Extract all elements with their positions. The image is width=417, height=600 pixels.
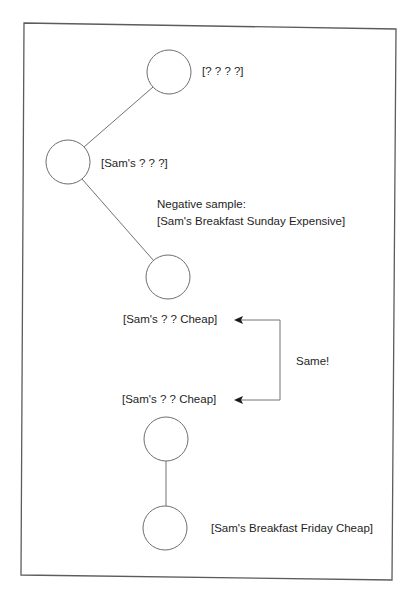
diagram-frame [21,23,396,580]
node-label-n4: [Sam's ? ? Cheap] [122,393,216,405]
node-circle-n4 [144,417,188,461]
node-label-n2: [Sam's ? ? ?] [101,157,168,169]
edge-n2-n3 [82,179,154,261]
negative-sample-value: [Sam's Breakfast Sunday Expensive] [157,215,345,227]
comparison-bracket-line [240,320,280,400]
edge-n1-n2 [84,87,153,147]
node-circle-n3 [146,255,190,299]
node-label-n3: [Sam's ? ? Cheap] [123,313,217,325]
node-label-n1: [? ? ? ?] [202,65,244,77]
node-circle-n5 [143,506,187,550]
node-circle-n1 [147,50,191,94]
diagram-canvas: [? ? ? ?] [Sam's ? ? ?] [Sam's ? ? Cheap… [0,0,417,600]
same-label: Same! [296,355,329,367]
node-circle-n2 [46,140,90,184]
node-label-n5: [Sam's Breakfast Friday Cheap] [211,522,373,534]
negative-sample-title: Negative sample: [157,198,246,210]
